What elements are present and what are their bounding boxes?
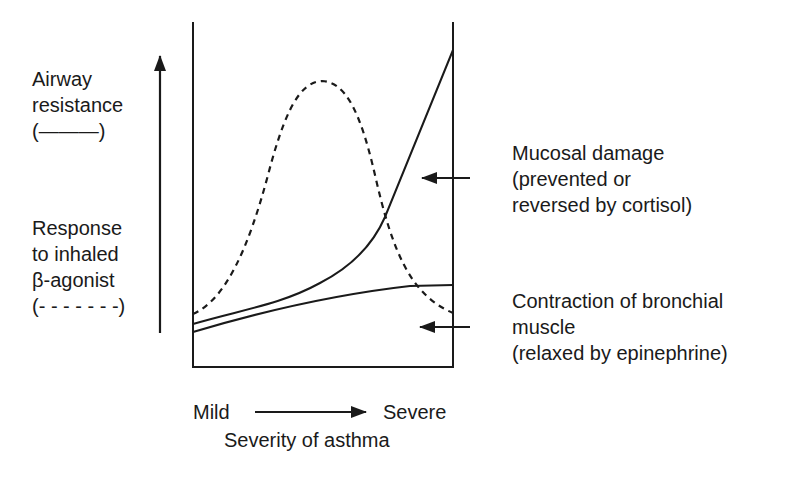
annotation-line: (prevented or — [512, 166, 692, 192]
airway-resistance-label: Airway resistance (———) — [32, 66, 123, 144]
label-line: β-agonist — [32, 267, 125, 293]
label-line: resistance — [32, 92, 123, 118]
label-line: Response — [32, 215, 125, 241]
annotation-line: Mucosal damage — [512, 140, 692, 166]
annotation-line: Contraction of bronchial — [512, 288, 728, 314]
solid-line-legend: (———) — [32, 118, 123, 144]
annotation-line: (relaxed by epinephrine) — [512, 340, 728, 366]
beta-agonist-label: Response to inhaled β-agonist (- - - - -… — [32, 215, 125, 319]
annotation-line: reversed by cortisol) — [512, 192, 692, 218]
label-line: to inhaled — [32, 241, 125, 267]
bronchial-muscle-annotation: Contraction of bronchial muscle (relaxed… — [512, 288, 728, 366]
plot-frame — [193, 22, 453, 367]
bronchial-muscle-curve — [193, 285, 453, 332]
x-axis-title: Severity of asthma — [224, 427, 390, 453]
mucosal-damage-annotation: Mucosal damage (prevented or reversed by… — [512, 140, 692, 218]
x-axis-end-label: Severe — [383, 399, 446, 425]
airway-resistance-total-curve — [193, 50, 453, 324]
x-axis-start-label: Mild — [193, 399, 230, 425]
annotation-line: muscle — [512, 314, 728, 340]
label-line: Airway — [32, 66, 123, 92]
dashed-line-legend: (- - - - - - -) — [32, 293, 125, 319]
beta-agonist-response-curve — [193, 81, 453, 314]
